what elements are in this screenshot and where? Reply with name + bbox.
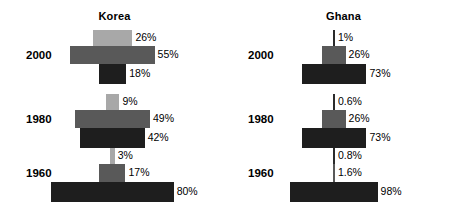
bar-dark	[99, 64, 127, 84]
row-year-label: 1980	[248, 113, 274, 125]
bar-dark	[290, 182, 377, 202]
bar-value-label: 26%	[135, 31, 156, 43]
bar-dark	[80, 128, 144, 148]
bar-medium	[75, 110, 150, 128]
bar-value-label: 73%	[369, 67, 390, 79]
bar-medium	[70, 46, 154, 64]
bar-dark	[51, 182, 173, 202]
bar-value-label: 1.6%	[338, 166, 362, 178]
bar-value-label: 1%	[338, 31, 353, 43]
bar-value-label: 26%	[349, 48, 370, 60]
bar-medium	[322, 46, 345, 64]
panel-title-ghana: Ghana	[229, 10, 458, 22]
row-year-label: 1960	[248, 167, 274, 179]
bar-value-label: 18%	[129, 67, 150, 79]
bar-value-label: 42%	[148, 131, 169, 143]
bar-value-label: 9%	[122, 95, 137, 107]
bar-value-label: 49%	[153, 112, 174, 124]
bar-medium	[322, 110, 345, 128]
bar-dark	[302, 128, 367, 148]
bar-medium	[333, 164, 334, 182]
bar-light	[93, 30, 133, 46]
bar-value-label: 0.8%	[338, 149, 362, 161]
bar-value-label: 55%	[158, 48, 179, 60]
bar-value-label: 26%	[349, 112, 370, 124]
bar-dark	[302, 64, 367, 84]
bar-value-label: 17%	[129, 166, 150, 178]
row-year-label: 1960	[26, 167, 52, 179]
bar-value-label: 0.6%	[338, 95, 362, 107]
panel-title-korea: Korea	[0, 10, 229, 22]
bar-value-label: 98%	[381, 185, 402, 197]
row-year-label: 1980	[26, 113, 52, 125]
bar-value-label: 80%	[177, 185, 198, 197]
centered-bar-chart: Korea Ghana 200026%55%18%19809%49%42%196…	[0, 0, 458, 202]
bar-medium	[99, 164, 125, 182]
bar-value-label: 3%	[118, 149, 133, 161]
row-year-label: 2000	[248, 49, 274, 61]
bar-value-label: 73%	[369, 131, 390, 143]
row-year-label: 2000	[26, 49, 52, 61]
bar-light	[110, 148, 115, 164]
bar-light	[106, 94, 120, 110]
